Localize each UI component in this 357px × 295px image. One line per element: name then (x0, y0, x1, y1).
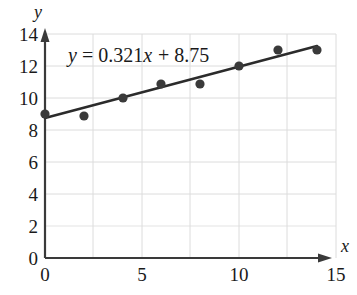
y-tick-14: 14 (19, 24, 39, 45)
y-tick-6: 6 (29, 152, 39, 173)
equation-slope: 0.321 (98, 44, 143, 66)
equation-variable: x (142, 44, 152, 66)
x-tick-15: 15 (327, 264, 346, 285)
data-point (79, 111, 88, 120)
data-point (40, 109, 49, 118)
x-tick-0: 0 (40, 264, 50, 285)
equation-plus: + (158, 44, 169, 66)
equation-intercept: 8.75 (174, 44, 209, 66)
y-tick-10: 10 (19, 88, 38, 109)
y-tick-2: 2 (29, 216, 39, 237)
data-point (234, 61, 243, 70)
equation-equals: = (82, 44, 93, 66)
data-point (118, 93, 127, 102)
y-tick-8: 8 (29, 120, 39, 141)
data-point (195, 79, 204, 88)
equation-lhs: y (66, 44, 77, 67)
x-tick-5: 5 (137, 264, 147, 285)
data-point (273, 45, 282, 54)
x-axis-label: x (340, 236, 349, 256)
regression-equation-annotation: y=0.321x+8.75 (66, 44, 209, 67)
data-point (312, 45, 321, 54)
y-tick-12: 12 (19, 56, 38, 77)
y-axis-label: y (32, 2, 42, 22)
scatter-plot-figure: y x 0 2 4 6 8 10 12 14 0 5 10 15 y=0.321… (0, 0, 357, 295)
y-tick-0: 0 (29, 248, 39, 269)
y-tick-4: 4 (29, 184, 39, 205)
data-point (156, 79, 165, 88)
x-tick-10: 10 (230, 264, 249, 285)
